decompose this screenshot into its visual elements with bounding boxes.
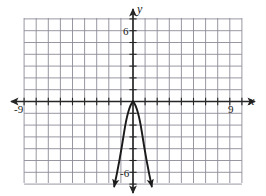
graph-figure: y x 6 -6 -9 9	[0, 0, 266, 196]
x-axis-label: x	[249, 95, 254, 107]
y-tick-label-neg6: -6	[120, 168, 129, 179]
y-tick-label-6: 6	[123, 26, 129, 37]
coordinate-plane	[0, 0, 266, 196]
x-tick-label-neg9: -9	[14, 104, 23, 115]
y-axis-label: y	[137, 3, 142, 15]
x-tick-label-9: 9	[228, 104, 234, 115]
